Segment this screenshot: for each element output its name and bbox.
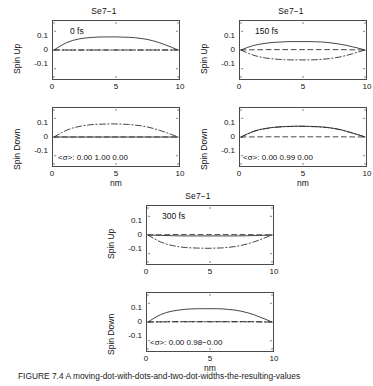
timestamp-300fs: 300 fs — [162, 211, 185, 221]
xtick-300fs-up-10: 10 — [264, 267, 284, 276]
ytick-0fs-down-0: 0 — [20, 132, 48, 141]
ytick-150fs-down-0: 0 — [207, 132, 235, 141]
ytick-300fs-down-p01: 0.1 — [114, 303, 142, 312]
xtick-150fs-up-0: 0 — [229, 82, 249, 91]
xtick-0fs-up-5: 5 — [106, 82, 126, 91]
panel-group-0fs: Se7−1 0.1 0 -0.1 Spin Up 0 fs 0 5 10 0.1… — [0, 6, 186, 186]
xlabel-150fs: nm — [283, 178, 323, 188]
group-title-0fs: Se7−1 — [22, 6, 186, 16]
ytick-150fs-down-p01: 0.1 — [207, 118, 235, 127]
panel-group-300fs: Se7−1 0.1 0 -0.1 Spin Up 300 fs 0 5 10 0… — [94, 191, 280, 371]
xlabel-0fs: nm — [96, 178, 136, 188]
xtick-300fs-down-10: 10 — [264, 354, 284, 363]
panel-group-150fs: Se7−1 0.1 0 -0.1 Spin Up 150 fs 0 5 10 0… — [187, 6, 373, 186]
timestamp-150fs: 150 fs — [255, 26, 278, 36]
figure-caption: FIGURE 7.4 A moving-dot-with-dots-and-tw… — [18, 371, 358, 386]
xtick-150fs-down-0: 0 — [229, 169, 249, 178]
xtick-300fs-down-5: 5 — [200, 354, 220, 363]
ytick-0fs-down-p01: 0.1 — [20, 118, 48, 127]
sigma-annotation-0fs: <σ>: 0.00 1.00 0.00 — [58, 153, 128, 162]
xtick-300fs-down-0: 0 — [136, 354, 156, 363]
ytick-300fs-up-p01: 0.1 — [114, 216, 142, 225]
xtick-150fs-up-5: 5 — [293, 82, 313, 91]
ylabel-0fs-spin-up: Spin Up — [12, 44, 22, 74]
ylabel-0fs-spin-down: Spin Down — [12, 129, 22, 170]
timestamp-0fs: 0 fs — [70, 26, 84, 36]
ylabel-300fs-spin-up: Spin Up — [106, 229, 116, 259]
xtick-300fs-up-0: 0 — [136, 267, 156, 276]
ylabel-300fs-spin-down: Spin Down — [106, 314, 116, 355]
ytick-300fs-up-0: 0 — [114, 230, 142, 239]
ylabel-150fs-spin-up: Spin Up — [199, 44, 209, 74]
xtick-150fs-up-10: 10 — [357, 82, 373, 91]
group-title-150fs: Se7−1 — [209, 6, 373, 16]
ytick-0fs-up-0: 0 — [20, 45, 48, 54]
figure-root: Se7−1 0.1 0 -0.1 Spin Up 0 fs 0 5 10 0.1… — [0, 0, 373, 386]
ytick-150fs-up-p01: 0.1 — [207, 31, 235, 40]
ylabel-150fs-spin-down: Spin Down — [199, 129, 209, 170]
ytick-300fs-down-0: 0 — [114, 317, 142, 326]
xtick-0fs-down-5: 5 — [106, 169, 126, 178]
xtick-150fs-down-5: 5 — [293, 169, 313, 178]
ytick-0fs-up-p01: 0.1 — [20, 31, 48, 40]
xtick-0fs-down-0: 0 — [42, 169, 62, 178]
sigma-annotation-300fs: <σ>: 0.00 0.98−0.00 — [150, 338, 222, 347]
xtick-150fs-down-10: 10 — [357, 169, 373, 178]
xtick-0fs-up-0: 0 — [42, 82, 62, 91]
group-title-300fs: Se7−1 — [116, 191, 280, 201]
ytick-150fs-up-0: 0 — [207, 45, 235, 54]
xtick-300fs-up-5: 5 — [200, 267, 220, 276]
sigma-annotation-150fs: <σ>: 0.00 0.99 0.00 — [243, 153, 313, 162]
